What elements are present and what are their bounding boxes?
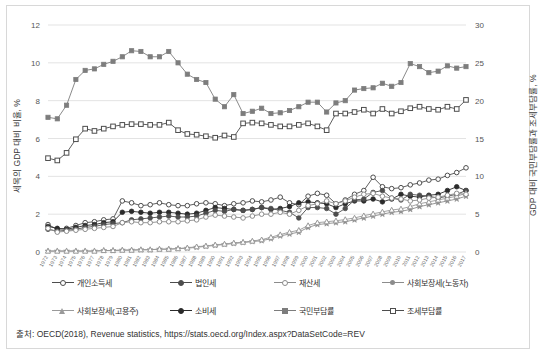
y-axis-right-tick: 25 — [475, 59, 484, 68]
y-axis-right-tick: 5 — [475, 210, 480, 219]
y-axis-left-tick: 2 — [36, 210, 41, 219]
legend-marker-icon — [170, 306, 192, 316]
legend-item[interactable]: 조세부담률 — [382, 305, 442, 316]
y-axis-left-tick: 6 — [36, 135, 41, 144]
y-axis-right-title: GDP 대비 국민부담률과 조세부담률, % — [526, 76, 538, 216]
legend-item[interactable]: 사회보장세(노동자) — [382, 277, 468, 288]
legend-item[interactable]: 소비세 — [170, 305, 216, 316]
y-axis-left-tick: 0 — [36, 248, 41, 257]
legend-label: 사회보장세(고용주) — [77, 305, 138, 316]
x-axis-tick: 2017 — [456, 255, 467, 268]
legend-item[interactable]: 개인소득세 — [52, 277, 112, 288]
y-axis-right-tick: 15 — [475, 135, 484, 144]
series-line — [45, 193, 469, 253]
legend-item[interactable]: 법인세 — [170, 277, 216, 288]
y-axis-right-tick: 20 — [475, 97, 484, 106]
legend-row: 사회보장세(고용주)소비세국민부담률조세부담률 — [52, 291, 492, 305]
y-axis-left-tick: 8 — [36, 97, 41, 106]
legend-marker-icon — [274, 306, 296, 316]
legend-marker-icon — [52, 278, 74, 288]
y-axis-left-title: 세목의 GDP 대비 비율, % — [10, 86, 22, 206]
y-axis-left-tick: 12 — [31, 21, 40, 30]
chart-legend: 개인소득세법인세재산세사회보장세(노동자)사회보장세(고용주)소비세국민부담률조… — [52, 277, 492, 305]
legend-item[interactable]: 국민부담률 — [274, 305, 334, 316]
legend-label: 국민부담률 — [299, 305, 334, 316]
legend-marker-icon — [382, 306, 404, 316]
legend-label: 개인소득세 — [77, 277, 112, 288]
legend-item[interactable]: 재산세 — [274, 277, 320, 288]
y-axis-right-tick: 0 — [475, 248, 480, 257]
y-axis-left-tick: 10 — [31, 59, 40, 68]
svg-text:2010: 2010 — [391, 255, 402, 268]
svg-text:2017: 2017 — [456, 255, 467, 268]
y-axis-left-tick: 4 — [36, 172, 41, 181]
legend-label: 법인세 — [195, 277, 216, 288]
legend-marker-icon — [382, 278, 404, 288]
legend-marker-icon — [274, 278, 296, 288]
legend-label: 소비세 — [195, 305, 216, 316]
x-axis-tick: 2010 — [391, 255, 402, 268]
chart-page: 0246810120510152025301972197319741975197… — [0, 0, 538, 359]
source-note: 출처: OECD(2018), Revenue statistics, http… — [16, 327, 365, 339]
legend-marker-icon — [170, 278, 192, 288]
series-line — [46, 98, 469, 163]
legend-label: 조세부담률 — [407, 305, 442, 316]
y-axis-right-tick: 30 — [475, 21, 484, 30]
legend-item[interactable]: 사회보장세(고용주) — [52, 305, 138, 316]
legend-label: 재산세 — [299, 277, 320, 288]
legend-marker-icon — [52, 306, 74, 316]
legend-label: 사회보장세(노동자) — [407, 277, 468, 288]
y-axis-right-tick: 10 — [475, 172, 484, 181]
legend-row: 개인소득세법인세재산세사회보장세(노동자) — [52, 277, 492, 291]
